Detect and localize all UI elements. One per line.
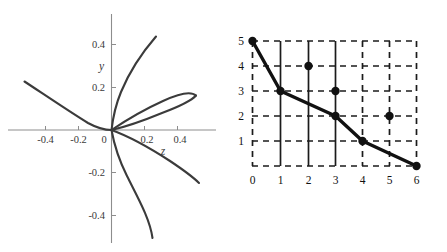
xtick-label-0.4: 0.4: [173, 134, 187, 145]
marker-1-3: [276, 87, 284, 95]
marker-0-5: [248, 37, 256, 45]
marker-5-2: [385, 112, 393, 120]
marker-6-0: [412, 162, 420, 170]
xtick-label-2: 2: [306, 174, 312, 186]
marker-3-2: [331, 112, 339, 120]
marker-3-3: [331, 87, 339, 95]
parametric-curve-svg: -0.4 -0.2 0 0.2 0.4 0.4 0.2 -0.2 -0.4 y …: [0, 0, 224, 252]
xtick-label--0.2: -0.2: [70, 134, 87, 145]
marker-4-1: [358, 137, 366, 145]
ytick-label-0.4: 0.4: [92, 39, 106, 50]
marker-group: [248, 37, 420, 170]
curve-loop-upper-edge: [112, 93, 197, 130]
xtick-label-0: 0: [250, 174, 256, 186]
xtick-label-6: 6: [414, 174, 420, 186]
ytick-label-1: 1: [238, 135, 244, 147]
curve-loop-lower-edge: [112, 96, 197, 131]
ytick-label-0.2: 0.2: [92, 82, 105, 93]
y-axis-label: y: [98, 60, 105, 73]
xtick-label--0.4: -0.4: [37, 134, 54, 145]
ytick-label-4: 4: [238, 60, 244, 72]
ytick-label-2: 2: [238, 110, 244, 122]
horizontal-gridline-group: [252, 41, 417, 166]
grid-polyline-panel: 5 4 3 2 1 0 1 2 3 4 5 6: [224, 0, 447, 252]
grid-polyline-svg: 5 4 3 2 1 0 1 2 3 4 5 6: [224, 0, 447, 252]
ytick-label-5: 5: [238, 35, 244, 47]
vertical-gridline-group: [253, 41, 417, 166]
parametric-curve-panel: -0.4 -0.2 0 0.2 0.4 0.4 0.2 -0.2 -0.4 y …: [0, 0, 224, 252]
xtick-label-5: 5: [387, 174, 393, 186]
data-polyline: [253, 41, 417, 166]
ytick-label--0.2: -0.2: [88, 167, 105, 178]
xtick-label-0: 0: [101, 134, 106, 145]
ytick-label-3: 3: [238, 85, 244, 97]
xtick-label-4: 4: [360, 174, 366, 186]
xtick-label-3: 3: [333, 174, 339, 186]
figure-root: -0.4 -0.2 0 0.2 0.4 0.4 0.2 -0.2 -0.4 y …: [0, 0, 447, 252]
xtick-label-1: 1: [278, 174, 284, 186]
marker-2-4: [304, 62, 312, 70]
ytick-label--0.4: -0.4: [88, 210, 105, 221]
